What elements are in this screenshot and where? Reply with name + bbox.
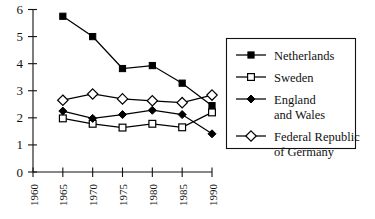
- legend-label: England: [274, 93, 316, 107]
- x-axis: 1960196519701975198019851990: [28, 168, 219, 207]
- data-point: [60, 13, 66, 19]
- data-point: [179, 80, 185, 86]
- chart-canvas: 0123456 1960196519701975198019851990 Net…: [0, 0, 375, 219]
- series-line: [63, 94, 212, 103]
- y-tick-label: 1: [17, 137, 24, 152]
- x-tick-label: 1990: [207, 184, 219, 207]
- line-chart: 0123456 1960196519701975198019851990 Net…: [0, 0, 375, 219]
- data-point: [209, 109, 216, 116]
- data-point: [117, 94, 127, 104]
- data-point: [90, 33, 96, 39]
- series-line: [63, 16, 212, 105]
- data-point: [87, 89, 97, 99]
- series-federal-republic-of-germany: [63, 94, 212, 103]
- x-tick-label: 1980: [147, 184, 159, 207]
- x-tick-label: 1970: [87, 184, 99, 207]
- y-tick-label: 4: [17, 56, 24, 71]
- data-point: [119, 111, 127, 119]
- data-point: [59, 107, 67, 115]
- data-point: [149, 62, 155, 68]
- chart-legend: NetherlandsSwedenEnglandand WalesFederal…: [227, 39, 361, 159]
- markers-netherlands: [60, 13, 215, 109]
- data-point: [147, 96, 157, 106]
- y-tick-label: 0: [17, 165, 24, 180]
- legend-label-line2: of Germany: [274, 145, 335, 159]
- data-point: [209, 103, 215, 109]
- x-tick-label: 1960: [28, 184, 40, 207]
- data-point: [178, 111, 186, 119]
- y-tick-labels: 0123456: [17, 2, 24, 180]
- x-tick-label: 1975: [117, 184, 129, 207]
- legend-marker-open-square-icon: [248, 74, 255, 81]
- data-point: [179, 124, 186, 131]
- x-tick-labels: 1960196519701975198019851990: [28, 184, 219, 207]
- data-point: [59, 115, 66, 122]
- data-point: [208, 130, 216, 138]
- data-point: [58, 95, 68, 105]
- data-point: [177, 97, 187, 107]
- legend-marker-filled-square-icon: [248, 52, 254, 58]
- y-tick-label: 2: [17, 110, 24, 125]
- data-point: [119, 65, 125, 71]
- x-tick-label: 1985: [177, 184, 189, 207]
- legend-label: Federal Republic: [274, 130, 360, 144]
- data-point: [119, 124, 126, 131]
- legend-label: Sweden: [274, 71, 314, 85]
- legend-label-line2: and Wales: [274, 108, 325, 122]
- y-tick-label: 6: [17, 2, 24, 17]
- y-tick-label: 3: [17, 83, 24, 98]
- data-point: [207, 90, 217, 100]
- legend-label: Netherlands: [274, 49, 335, 63]
- data-series-group: [58, 13, 218, 138]
- y-tick-label: 5: [17, 29, 24, 44]
- series-netherlands: [63, 16, 212, 105]
- x-tick-label: 1965: [57, 184, 69, 207]
- data-point: [148, 106, 156, 114]
- y-axis: 0123456: [17, 2, 38, 180]
- data-point: [149, 120, 156, 127]
